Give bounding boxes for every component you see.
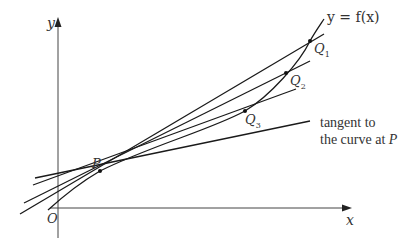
- point-q1-label: Q1: [314, 42, 330, 59]
- annotation-line1: tangent to: [320, 114, 397, 131]
- y-axis-arrow-icon: [55, 17, 62, 27]
- point-p-label: P: [92, 157, 101, 170]
- q1-letter: Q: [314, 41, 325, 56]
- q2-letter: Q: [290, 73, 301, 88]
- x-axis-arrow-icon: [342, 205, 352, 212]
- q3-letter: Q: [245, 112, 256, 127]
- chord-p-q3: [33, 89, 296, 185]
- tangent-annotation: tangent to the curve at P: [320, 114, 397, 148]
- chord-p-q2: [24, 61, 310, 203]
- origin-label: O: [47, 212, 58, 225]
- annotation-line2: the curve at P: [320, 131, 397, 148]
- annotation-point: P: [389, 132, 398, 147]
- curve-f: [48, 19, 324, 210]
- curve-label: y = f(x): [327, 10, 380, 24]
- chord-p-q1: [20, 34, 324, 214]
- point-q2: [284, 71, 288, 75]
- point-q1: [308, 39, 312, 43]
- q1-subscript: 1: [325, 50, 330, 59]
- point-q3-label: Q3: [245, 113, 261, 130]
- q2-subscript: 2: [301, 82, 306, 91]
- y-axis-label: y: [47, 16, 55, 30]
- point-q2-label: Q2: [290, 74, 306, 91]
- x-axis-label: x: [346, 213, 354, 227]
- q3-subscript: 3: [256, 121, 261, 130]
- annotation-line2-text: the curve at: [320, 132, 389, 147]
